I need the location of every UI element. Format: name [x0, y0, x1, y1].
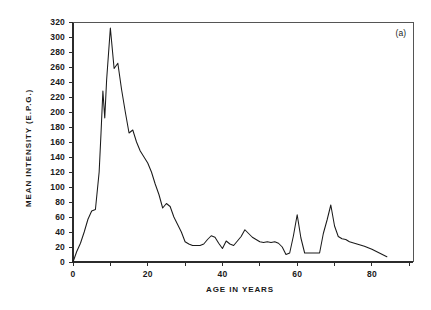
y-tick-label: 220 — [50, 92, 65, 102]
x-axis-title: AGE IN YEARS — [206, 285, 274, 294]
axis-ticks — [69, 22, 409, 266]
y-tick-label: 320 — [50, 17, 65, 27]
x-tick-label: 20 — [143, 269, 153, 279]
y-tick-label: 20 — [55, 242, 65, 252]
y-tick-label: 200 — [50, 107, 65, 117]
y-tick-label: 80 — [55, 197, 65, 207]
y-tick-label: 0 — [60, 257, 65, 267]
y-axis-title: MEAN INTENSITY (E.P.G.) — [24, 89, 33, 207]
y-tick-label: 180 — [50, 122, 65, 132]
data-series-line — [73, 28, 387, 262]
x-tick-label: 80 — [367, 269, 377, 279]
line-chart: 0204060801001201401601802002202402602803… — [0, 0, 431, 310]
x-tick-label: 0 — [71, 269, 76, 279]
y-tick-label: 60 — [55, 212, 65, 222]
figure-panel: 0204060801001201401601802002202402602803… — [0, 0, 431, 310]
x-tick-labels: 020406080 — [71, 269, 377, 279]
plot-frame — [73, 22, 413, 262]
y-tick-label: 300 — [50, 32, 65, 42]
x-tick-label: 60 — [292, 269, 302, 279]
y-tick-label: 140 — [50, 152, 65, 162]
panel-label: (a) — [396, 28, 407, 38]
y-tick-label: 120 — [50, 167, 65, 177]
y-tick-label: 280 — [50, 47, 65, 57]
y-tick-label: 260 — [50, 62, 65, 72]
y-tick-label: 40 — [55, 227, 65, 237]
y-tick-label: 100 — [50, 182, 65, 192]
y-tick-label: 160 — [50, 137, 65, 147]
x-tick-label: 40 — [218, 269, 228, 279]
y-tick-labels: 0204060801001201401601802002202402602803… — [50, 17, 65, 267]
y-tick-label: 240 — [50, 77, 65, 87]
